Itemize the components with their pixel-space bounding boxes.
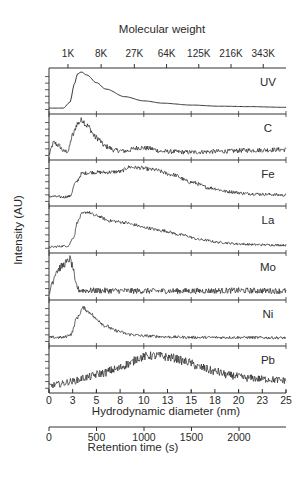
diameter-axis: 035810131518202325 — [46, 389, 292, 406]
top-tick-label: 27K — [125, 48, 143, 59]
panel-label: UV — [260, 76, 276, 88]
panel-label: Fe — [261, 168, 274, 180]
retention-tick-label: 2000 — [227, 431, 251, 443]
panel-uv: UV — [45, 68, 286, 117]
panel-pb: Pb — [45, 346, 286, 393]
trace-la — [49, 211, 286, 248]
panel-fe: Fe — [45, 160, 286, 209]
top-tick-label: 343K — [252, 48, 276, 59]
x-tick-label: 0 — [46, 394, 52, 406]
top-axis-title: Molecular weight — [119, 23, 206, 35]
y-axis-title: Intensity (AU) — [12, 195, 24, 265]
trace-fe — [49, 166, 286, 199]
x-tick-label: 25 — [280, 394, 292, 406]
top-tick-label: 125K — [187, 48, 211, 59]
stacked-fractogram-chart: Molecular weight 1K8K27K64K125K216K343K … — [0, 0, 304, 477]
molecular-weight-axis: 1K8K27K64K125K216K343K — [49, 48, 286, 68]
panel-label: La — [262, 214, 275, 226]
retention-tick-label: 0 — [46, 431, 52, 443]
top-tick-label: 64K — [158, 48, 176, 59]
x-tick-label: 23 — [256, 394, 268, 406]
panel-ni: Ni — [45, 300, 286, 349]
panel-label: Ni — [263, 308, 274, 320]
retention-tick-label: 1500 — [180, 431, 204, 443]
trace-c — [49, 118, 286, 155]
x-tick-label: 3 — [70, 394, 76, 406]
panel-label: Pb — [261, 354, 275, 366]
top-tick-label: 216K — [219, 48, 243, 59]
retention-axis-title: Retention time (s) — [88, 441, 179, 453]
panel-label: Mo — [260, 261, 276, 273]
panel-la: La — [45, 206, 286, 256]
panel-c: C — [45, 114, 286, 163]
element-panels: UVCFeLaMoNiPb — [45, 68, 286, 393]
trace-ni — [49, 306, 286, 339]
trace-pb — [49, 352, 286, 388]
trace-uv — [49, 72, 286, 108]
x-axis-title: Hydrodynamic diameter (nm) — [92, 405, 240, 417]
trace-mo — [49, 256, 286, 295]
top-tick-label: 1K — [62, 48, 75, 59]
panel-mo: Mo — [45, 253, 286, 303]
top-tick-label: 8K — [95, 48, 108, 59]
panel-label: C — [264, 122, 272, 134]
